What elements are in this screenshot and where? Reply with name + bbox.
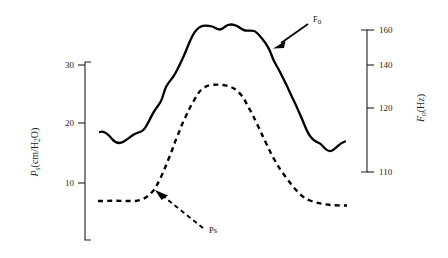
ps-series-label: Ps: [209, 225, 217, 235]
left-axis-title-main: P: [29, 170, 40, 177]
right-axis-tick-label-110: 110: [379, 167, 393, 177]
right-axis-title-unit: (Hz): [415, 94, 427, 112]
right-axis-tick-label-140: 140: [379, 60, 393, 70]
chart-background: [0, 0, 448, 258]
figure-container: 30 20 10 Ps(cm/H2O) 160 140 120 110 Fo(H…: [0, 0, 448, 258]
left-axis-title-unit: (cm/H: [29, 142, 41, 168]
right-axis-tick-label-120: 120: [379, 103, 393, 113]
chart-svg: 30 20 10 Ps(cm/H2O) 160 140 120 110 Fo(H…: [0, 0, 448, 258]
left-axis-tick-label-30: 30: [65, 60, 75, 70]
left-axis-tick-label-20: 20: [65, 118, 75, 128]
right-axis-tick-label-160: 160: [379, 25, 393, 35]
left-axis-tick-label-10: 10: [65, 178, 75, 188]
left-axis-title-unit-end: O): [29, 128, 41, 139]
